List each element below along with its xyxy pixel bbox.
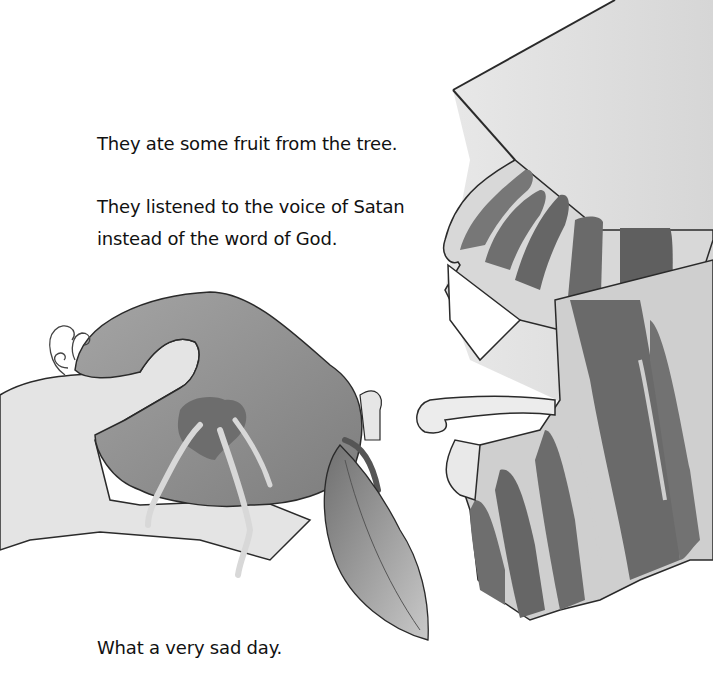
story-text-line-1: They ate some fruit from the tree. [97,128,397,160]
illustration [0,0,713,692]
story-text-line-2: They listened to the voice of Satan [97,191,404,223]
fruit-leaf [324,440,428,640]
story-text-closing: What a very sad day. [97,632,282,664]
story-text-line-3: instead of the word of God. [97,223,337,255]
book-page: They ate some fruit from the tree. They … [0,0,713,692]
